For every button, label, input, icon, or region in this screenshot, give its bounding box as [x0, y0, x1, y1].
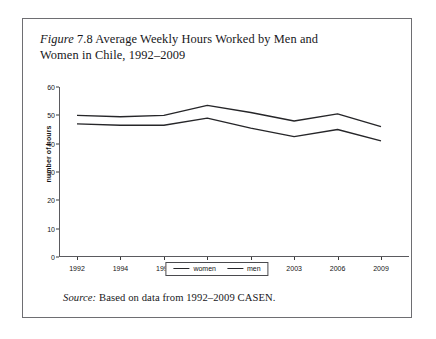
legend-entry-men: men [227, 265, 261, 272]
source-label: Source: [63, 292, 96, 303]
source-note: Source: Based on data from 1992–2009 CAS… [63, 292, 276, 303]
legend-swatch-men [227, 268, 243, 269]
x-tick-label-2009: 2009 [373, 265, 389, 272]
y-tick-label-10: 10 [47, 225, 55, 232]
x-tick-label-2003: 2003 [286, 265, 302, 272]
x-tick-mark-2000 [251, 257, 252, 260]
x-tick-label-1994: 1994 [113, 265, 129, 272]
y-axis-title: number of hours [45, 81, 57, 227]
x-tick-mark-1998 [207, 257, 208, 260]
y-tick-label-20: 20 [47, 197, 55, 204]
figure-caption: Figure 7.8 Average Weekly Hours Worked b… [40, 31, 340, 64]
y-tick-label-30: 30 [47, 169, 55, 176]
x-tick-mark-1992 [77, 257, 78, 260]
y-tick-label-50: 50 [47, 112, 55, 119]
legend-entry-women: women [173, 265, 216, 272]
legend-swatch-women [173, 268, 189, 269]
legend-label-men: men [247, 265, 261, 272]
series-line-women [77, 118, 381, 141]
x-tick-mark-2009 [381, 257, 382, 260]
y-tick-label-40: 40 [47, 140, 55, 147]
x-tick-mark-2006 [338, 257, 339, 260]
chart-series-lines [59, 87, 395, 257]
figure-label: Figure [40, 32, 74, 46]
source-text: Based on data from 1992–2009 CASEN. [96, 292, 275, 303]
figure-caption-text: 7.8 Average Weekly Hours Worked by Men a… [40, 32, 318, 62]
x-tick-mark-1996 [164, 257, 165, 260]
x-tick-mark-2003 [294, 257, 295, 260]
chart-plot-area: number of hours 0102030405060 1992199419… [59, 87, 395, 257]
x-tick-label-1992: 1992 [69, 265, 85, 272]
x-tick-mark-1994 [120, 257, 121, 260]
figure-frame: Figure 7.8 Average Weekly Hours Worked b… [22, 18, 412, 318]
x-tick-label-2006: 2006 [330, 265, 346, 272]
y-tick-label-60: 60 [47, 84, 55, 91]
chart-legend: womenmen [165, 262, 268, 276]
y-tick-label-0: 0 [51, 254, 55, 261]
legend-label-women: women [193, 265, 216, 272]
